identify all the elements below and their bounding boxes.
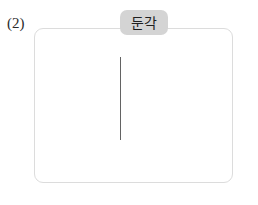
angle-type-badge: 둔각 <box>120 10 168 35</box>
figure-panel <box>34 28 233 183</box>
angle-type-badge-label: 둔각 <box>131 14 157 30</box>
figure-index-label: (2) <box>7 14 25 32</box>
figure-canvas: (2) 둔각 <box>0 0 258 205</box>
